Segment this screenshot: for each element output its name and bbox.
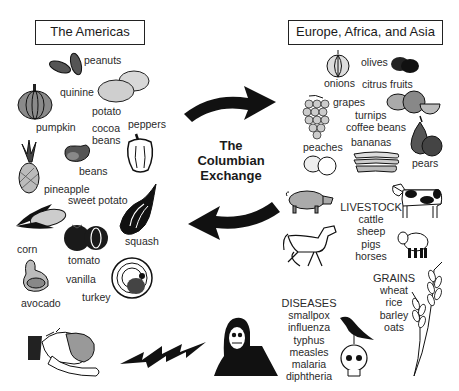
- diseases-list: DISEASES smallpox influenza typhus measl…: [276, 297, 342, 382]
- label-beans: beans: [79, 165, 108, 177]
- diseases-item: influenza: [276, 321, 342, 333]
- label-bananas: bananas: [351, 136, 391, 148]
- label-cocoa: cocoa: [92, 122, 120, 134]
- label-vanilla: vanilla: [66, 273, 96, 285]
- pepper-icon: [124, 132, 156, 174]
- avocado-icon: [20, 258, 54, 294]
- potato-icon: [96, 70, 152, 104]
- onion-icon: [325, 50, 351, 78]
- bananas-icon: [350, 150, 402, 174]
- label-turkey: turkey: [82, 291, 111, 303]
- label-peaches: peaches: [303, 141, 343, 153]
- label-coffee-beans: coffee beans: [346, 121, 406, 133]
- label-pears: pears: [412, 157, 438, 169]
- peanuts-icon: [48, 52, 88, 82]
- diseases-heading: DISEASES: [276, 297, 342, 309]
- label-olives: olives: [361, 56, 388, 68]
- label-citrus-fruits: citrus fruits: [362, 78, 413, 90]
- turkey-icon: [110, 256, 154, 300]
- label-peppers: peppers: [128, 118, 166, 130]
- americas-heading-box: The Americas: [35, 20, 145, 45]
- old-world-heading: Europe, Africa, and Asia: [296, 24, 435, 39]
- beans-icon: [62, 142, 92, 164]
- label-peanuts: peanuts: [84, 54, 121, 66]
- grapes-icon: [301, 94, 333, 140]
- americas-heading: The Americas: [50, 24, 129, 39]
- diseases-item: smallpox: [276, 309, 342, 321]
- peaches-icon: [303, 154, 339, 176]
- wheat-icon: [408, 262, 444, 380]
- center-title: The Columbian Exchange: [186, 138, 276, 183]
- arrow-right-icon: [182, 84, 278, 124]
- label-cocoa-beans: beans: [92, 134, 121, 146]
- squash-icon: [118, 182, 160, 238]
- label-grapes: grapes: [333, 96, 365, 108]
- pineapple-icon: [16, 140, 42, 194]
- cow-icon: [389, 180, 445, 220]
- horse-icon: [278, 222, 344, 272]
- pumpkin-icon: [16, 84, 54, 120]
- label-onions: onions: [324, 77, 355, 89]
- label-quinine: quinine: [60, 86, 94, 98]
- label-turnips: turnips: [355, 109, 387, 121]
- pears-icon: [406, 116, 444, 158]
- arrow-left-icon: [186, 200, 282, 242]
- sheep-icon: [396, 228, 430, 260]
- olives-icon: [390, 52, 420, 76]
- center-title-line2: Columbian: [186, 153, 276, 168]
- lightning-arrow-icon: [118, 342, 208, 370]
- diseases-item: typhus: [276, 334, 342, 346]
- diseases-item: measles: [276, 346, 342, 358]
- tomato-icon: [62, 222, 110, 252]
- sick-person-icon: [26, 324, 102, 380]
- citrus-icon: [386, 90, 442, 116]
- label-corn: corn: [17, 243, 37, 255]
- old-world-heading-box: Europe, Africa, and Asia: [288, 20, 443, 45]
- center-title-line1: The: [186, 138, 276, 153]
- label-potato: potato: [92, 105, 121, 117]
- corn-icon: [14, 200, 68, 234]
- diseases-item: diphtheria: [276, 370, 342, 382]
- label-pumpkin: pumpkin: [36, 121, 76, 133]
- label-tomato: tomato: [68, 254, 100, 266]
- crow-skull-icon: [336, 314, 376, 380]
- center-title-line3: Exchange: [186, 168, 276, 183]
- label-squash: squash: [125, 235, 159, 247]
- grim-reaper-icon: [212, 316, 282, 378]
- label-avocado: avocado: [21, 297, 61, 309]
- diseases-item: malaria: [276, 358, 342, 370]
- pig-icon: [283, 188, 337, 214]
